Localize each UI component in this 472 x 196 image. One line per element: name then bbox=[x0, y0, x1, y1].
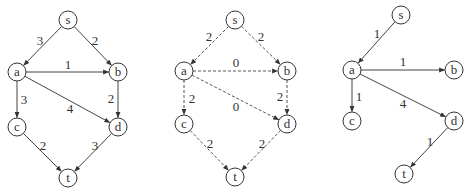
node-label: b bbox=[115, 64, 122, 79]
node-d: d bbox=[109, 118, 127, 136]
node-c: c bbox=[343, 112, 361, 130]
flow-graph: 22020222sabcdt bbox=[175, 11, 296, 186]
edge-label-a-d: 4 bbox=[67, 101, 74, 116]
graphs-root: 32134223sabcdt22020222sabcdt11141sabcdt bbox=[8, 6, 463, 187]
node-label: d bbox=[451, 113, 458, 128]
edge-label-s-b: 2 bbox=[92, 33, 99, 48]
node-label: c bbox=[349, 113, 355, 128]
edge-label-d-t: 1 bbox=[427, 134, 434, 149]
node-b: b bbox=[278, 62, 296, 80]
node-label: s bbox=[398, 7, 403, 22]
node-label: a bbox=[349, 62, 355, 77]
graph-figure: 32134223sabcdt22020222sabcdt11141sabcdt bbox=[0, 0, 472, 196]
node-label: b bbox=[284, 63, 291, 78]
capacity-graph: 32134223sabcdt bbox=[8, 11, 127, 187]
edge-label-a-c: 3 bbox=[21, 92, 28, 107]
edge-label-a-d: 4 bbox=[400, 96, 407, 111]
edge-label-a-d: 0 bbox=[233, 99, 240, 114]
edge-label-a-b: 0 bbox=[233, 55, 240, 70]
node-label: a bbox=[14, 64, 20, 79]
node-d: d bbox=[445, 112, 463, 130]
edge-label-s-a: 1 bbox=[374, 26, 381, 41]
edge-label-a-b: 1 bbox=[400, 54, 407, 69]
node-t: t bbox=[226, 168, 244, 186]
node-label: t bbox=[66, 170, 70, 185]
edge-label-s-a: 3 bbox=[37, 33, 44, 48]
edge-label-s-b: 2 bbox=[258, 29, 265, 44]
result-graph: 11141sabcdt bbox=[343, 6, 463, 183]
edge-label-c-t: 2 bbox=[207, 136, 214, 151]
node-c: c bbox=[8, 118, 26, 136]
edge-label-b-d: 2 bbox=[277, 89, 284, 104]
edge-label-b-d: 2 bbox=[108, 91, 115, 106]
edge-label-a-c: 1 bbox=[356, 89, 363, 104]
node-label: t bbox=[402, 166, 406, 181]
node-a: a bbox=[175, 62, 193, 80]
node-label: a bbox=[181, 63, 187, 78]
node-b: b bbox=[445, 61, 463, 79]
node-d: d bbox=[278, 115, 296, 133]
node-label: s bbox=[232, 12, 237, 27]
node-a: a bbox=[8, 63, 26, 81]
node-label: t bbox=[233, 169, 237, 184]
edge-label-a-b: 1 bbox=[65, 57, 72, 72]
edge-label-d-t: 2 bbox=[259, 136, 266, 151]
node-label: b bbox=[451, 62, 458, 77]
node-c: c bbox=[175, 115, 193, 133]
edge-label-a-c: 2 bbox=[189, 91, 196, 106]
node-label: c bbox=[181, 116, 187, 131]
node-s: s bbox=[226, 11, 244, 29]
node-a: a bbox=[343, 61, 361, 79]
node-s: s bbox=[392, 6, 410, 24]
node-t: t bbox=[59, 169, 77, 187]
node-label: d bbox=[284, 116, 291, 131]
node-s: s bbox=[59, 11, 77, 29]
node-b: b bbox=[109, 63, 127, 81]
edge-label-d-t: 3 bbox=[92, 138, 99, 153]
node-label: c bbox=[14, 119, 20, 134]
node-label: s bbox=[65, 12, 70, 27]
edge-label-c-t: 2 bbox=[40, 138, 47, 153]
edge-label-s-a: 2 bbox=[206, 29, 213, 44]
edge-a-d bbox=[25, 76, 110, 122]
node-label: d bbox=[115, 119, 122, 134]
node-t: t bbox=[395, 165, 413, 183]
